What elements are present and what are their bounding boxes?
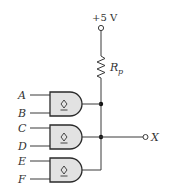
input-label-d: D	[17, 140, 27, 153]
input-label-c: C	[18, 122, 27, 135]
and-gate-2	[30, 125, 101, 149]
supply-terminal	[98, 25, 103, 30]
input-label-a: A	[17, 89, 26, 102]
and-gate-icon	[50, 125, 82, 149]
input-label-b: B	[17, 107, 26, 120]
output-label: X	[150, 131, 160, 144]
input-label-e: E	[17, 155, 26, 168]
resistor-icon	[97, 56, 105, 78]
input-label-f: F	[17, 173, 26, 186]
wired-and-circuit: +5 V R p X A B C D E F	[0, 0, 170, 196]
resistor-subscript: p	[118, 67, 123, 76]
output-terminal	[143, 135, 148, 140]
and-gate-1	[30, 92, 101, 116]
resistor-label: R	[109, 61, 118, 74]
supply-label: +5 V	[92, 12, 118, 23]
and-gate-3	[30, 158, 101, 182]
and-gate-icon	[50, 158, 82, 182]
and-gate-icon	[50, 92, 82, 116]
